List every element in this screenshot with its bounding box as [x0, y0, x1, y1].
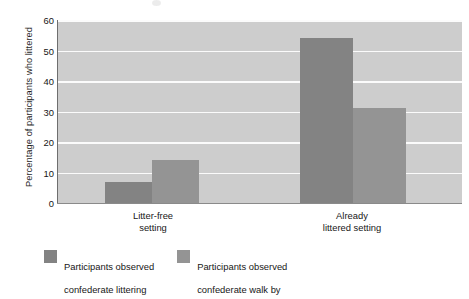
y-tick-label-0: 0 — [8, 198, 54, 209]
y-tick-label-20: 20 — [8, 137, 54, 148]
y-tick-label-50: 50 — [8, 45, 54, 56]
gridline-60 — [58, 20, 462, 22]
y-tick-label-30: 30 — [8, 106, 54, 117]
legend-swatch-icon-confederate-littering — [44, 250, 57, 263]
x-category-label-already-littered-line1: Already — [292, 210, 412, 222]
y-tick-label-40: 40 — [8, 76, 54, 87]
legend-label-confederate-walk-by-line1: Participants observed — [197, 261, 287, 273]
x-category-label-already-littered: Already littered setting — [292, 210, 412, 233]
x-category-label-already-littered-line2: littered setting — [292, 222, 412, 234]
x-axis-line — [57, 203, 462, 204]
x-category-label-litter-free: Litter-free setting — [98, 210, 208, 233]
legend-label-confederate-littering: Participants observed confederate litter… — [64, 249, 154, 299]
bar-litter-free-confederate-littering[interactable] — [105, 182, 152, 203]
legend-swatch-icon-confederate-walk-by — [177, 250, 190, 263]
gridline-50 — [58, 51, 462, 53]
chart-legend: Participants observed confederate litter… — [44, 249, 287, 299]
gridline-40 — [58, 81, 462, 83]
scan-artifact — [152, 0, 161, 6]
x-category-label-litter-free-line2: setting — [98, 222, 208, 234]
y-tick-label-60: 60 — [8, 15, 54, 26]
legend-label-confederate-littering-line1: Participants observed — [64, 261, 154, 273]
legend-label-confederate-littering-line2: confederate littering — [64, 284, 154, 296]
bar-already-littered-confederate-walk-by[interactable] — [353, 108, 406, 203]
x-category-label-litter-free-line1: Litter-free — [98, 210, 208, 222]
legend-label-confederate-walk-by: Participants observed confederate walk b… — [197, 249, 287, 299]
plot-area — [58, 20, 462, 203]
y-tick-label-10: 10 — [8, 167, 54, 178]
bar-already-littered-confederate-littering[interactable] — [300, 38, 353, 203]
legend-item-confederate-walk-by[interactable]: Participants observed confederate walk b… — [177, 249, 287, 299]
legend-label-confederate-walk-by-line2: confederate walk by — [197, 284, 287, 296]
legend-item-confederate-littering[interactable]: Participants observed confederate litter… — [44, 249, 154, 299]
y-axis-tick-labels: 60 50 40 30 20 10 0 — [0, 0, 54, 289]
bar-litter-free-confederate-walk-by[interactable] — [152, 160, 199, 203]
